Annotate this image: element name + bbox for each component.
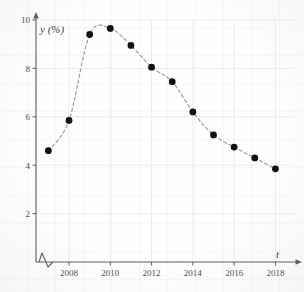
axes [33,12,302,267]
gridlines [36,20,294,262]
x-axis-arrow-icon [296,259,303,265]
x-axis-ticks: 200820102012201420162018 [60,262,285,278]
data-series-line [48,25,275,169]
svg-text:6: 6 [26,112,31,122]
y-axis-arrow-icon [33,12,39,19]
svg-text:2012: 2012 [143,268,161,278]
svg-text:2008: 2008 [60,268,79,278]
svg-text:2016: 2016 [225,268,244,278]
chart-figure: 246810 200820102012201420162018 y (%) t [0,0,304,292]
data-points [45,25,279,172]
line-chart-plot: 246810 200820102012201420162018 y (%) t [0,0,304,292]
svg-text:2: 2 [26,209,31,219]
svg-text:4: 4 [26,161,31,171]
axis-break-icon [39,253,53,267]
x-axis-title: t [276,248,280,260]
svg-text:8: 8 [26,64,31,74]
y-axis-title: y (%) [39,23,64,36]
svg-text:2014: 2014 [184,268,203,278]
svg-text:2010: 2010 [101,268,120,278]
svg-text:2018: 2018 [266,268,285,278]
y-axis-ticks: 246810 [21,15,36,219]
svg-text:10: 10 [21,15,31,25]
